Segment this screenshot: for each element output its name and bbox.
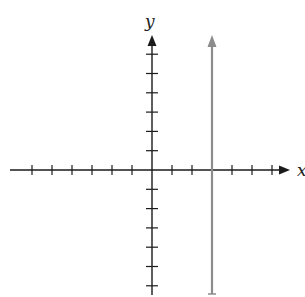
x-axis-arrow-icon [279,166,290,175]
y-axis [146,35,158,295]
y-axis-arrow-icon [148,35,157,46]
vertical-line-series [208,35,217,294]
x-axis-label: x [297,160,305,180]
up-arrow-icon [208,35,217,47]
y-axis-label: y [144,11,155,31]
x-axis [10,165,290,175]
coordinate-plane: x y [0,0,305,297]
